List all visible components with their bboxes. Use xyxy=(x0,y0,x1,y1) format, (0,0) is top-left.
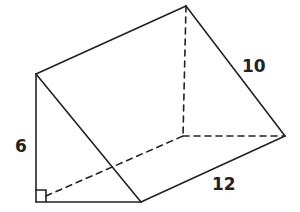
hidden-edges xyxy=(46,6,285,196)
edge-slant-back xyxy=(186,6,285,136)
edge-top xyxy=(36,6,186,74)
hidden-edge-vertical xyxy=(183,6,186,136)
label-slant: 10 xyxy=(242,56,266,76)
edge-hypotenuse-front xyxy=(36,74,141,202)
triangular-prism-diagram: 6 10 12 xyxy=(0,0,300,212)
label-height: 6 xyxy=(15,136,27,156)
right-angle-marker xyxy=(36,190,46,202)
hidden-edge-length xyxy=(46,136,183,196)
label-length: 12 xyxy=(212,174,236,194)
